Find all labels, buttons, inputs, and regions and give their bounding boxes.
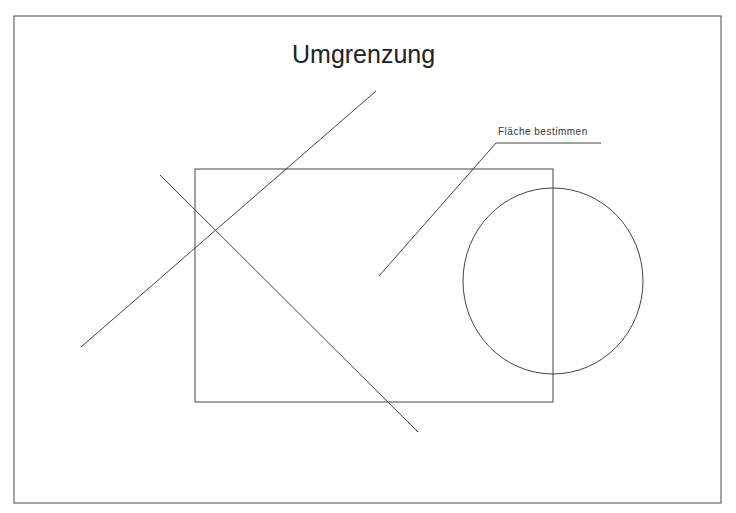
diagonal-line-1[interactable] (81, 91, 376, 347)
diagonal-line-2[interactable] (160, 175, 418, 432)
annotation-label: Fläche bestimmen (498, 126, 588, 137)
drawing-frame (14, 16, 721, 503)
drawing-canvas (0, 0, 736, 513)
boundary-rectangle[interactable] (195, 169, 553, 402)
leader-line[interactable] (379, 143, 601, 276)
drawing-title: Umgrenzung (292, 40, 435, 69)
